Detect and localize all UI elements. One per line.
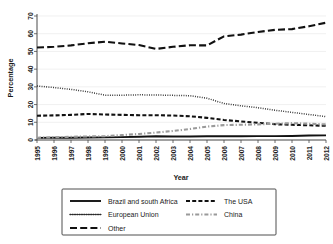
x-tick-label: 2007 — [238, 146, 245, 161]
y-tick-label: 10 — [27, 118, 34, 126]
legend-label: Other — [108, 225, 126, 232]
x-tick-label: 1996 — [51, 146, 58, 161]
x-tick-label: 2000 — [119, 146, 126, 161]
legend-label: The USA — [224, 198, 253, 205]
chart-canvas: 010203040506070 199519961997199819992000… — [0, 0, 333, 244]
x-tick-label: 2001 — [136, 146, 143, 161]
x-tick-label: 2003 — [170, 146, 177, 161]
y-tick-label: 0 — [27, 138, 34, 142]
x-tick-label: 2006 — [221, 146, 228, 161]
data-series — [37, 23, 326, 138]
y-tick-label: 70 — [27, 12, 34, 20]
x-tick-label: 1999 — [102, 146, 109, 161]
y-tick-label: 30 — [27, 83, 34, 91]
grid-lines — [37, 16, 326, 140]
axes — [35, 14, 326, 140]
y-tick-label: 60 — [27, 30, 34, 38]
legend-label: Brazil and south Africa — [108, 198, 178, 205]
series-line — [37, 86, 326, 117]
chart-legend: Brazil and south AfricaThe USAEuropean U… — [62, 189, 276, 235]
x-tick-label: 1995 — [34, 146, 41, 161]
x-tick-label: 2011 — [306, 146, 313, 161]
legend-label: China — [224, 211, 242, 218]
x-tick-label: 1998 — [85, 146, 92, 161]
x-tick-label: 2005 — [204, 146, 211, 161]
x-axis-title: Year — [173, 173, 188, 182]
x-axis-tick-labels: 1995199619971998199920002001200220032004… — [34, 140, 330, 161]
x-tick-label: 2008 — [255, 146, 262, 161]
y-tick-label: 40 — [27, 65, 34, 73]
x-tick-label: 2012 — [323, 146, 330, 161]
y-tick-label: 50 — [27, 47, 34, 55]
x-tick-label: 2009 — [272, 146, 279, 161]
x-tick-label: 2002 — [153, 146, 160, 161]
series-line — [37, 23, 326, 49]
y-axis-tick-labels: 010203040506070 — [27, 12, 38, 142]
x-tick-label: 2004 — [187, 146, 194, 161]
legend-label: European Union — [108, 211, 159, 219]
y-tick-label: 20 — [27, 101, 34, 109]
y-axis-title: Percentage — [6, 59, 15, 98]
x-tick-label: 1997 — [68, 146, 75, 161]
x-tick-label: 2010 — [289, 146, 296, 161]
line-chart: 010203040506070 199519961997199819992000… — [0, 0, 333, 244]
